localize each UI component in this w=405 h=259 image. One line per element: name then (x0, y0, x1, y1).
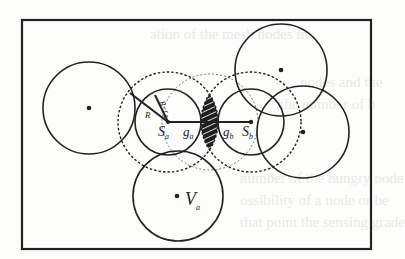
label-Sb: Sb (242, 124, 253, 141)
left-center-dot (87, 106, 92, 111)
right-center-dot (301, 130, 306, 135)
top-right-center-dot (279, 68, 284, 73)
figure-frame (22, 20, 371, 249)
label-R: R (144, 110, 151, 120)
label-Va: Va (185, 189, 200, 212)
label-ga: ga (183, 124, 194, 141)
sa-dot (166, 120, 170, 124)
sb-dot (249, 120, 253, 124)
va-center-dot (175, 194, 180, 199)
label-gb: gb (223, 124, 234, 141)
label-Sa: Sa (158, 124, 169, 141)
